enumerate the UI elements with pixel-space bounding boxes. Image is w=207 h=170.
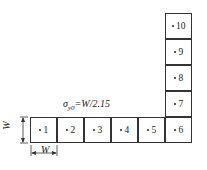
width-label-horizontal: W bbox=[41, 144, 49, 155]
width-label-vertical: W bbox=[1, 121, 12, 129]
dimension-arrows bbox=[0, 0, 207, 170]
